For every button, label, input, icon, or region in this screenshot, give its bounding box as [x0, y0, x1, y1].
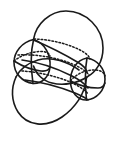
right-sphere-equator-hidden [71, 70, 106, 81]
upper-band-edge-dashed [34, 39, 90, 59]
figure-canvas [0, 0, 120, 150]
figure-stroke-layer [12, 11, 105, 124]
intersecting-spheres-diagram [0, 0, 120, 150]
